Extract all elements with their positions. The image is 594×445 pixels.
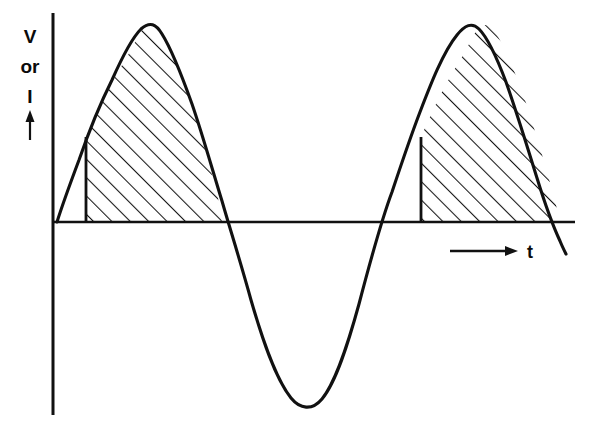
y-axis-label-line-3: I [27, 86, 32, 107]
y-axis-label-line-2: or [21, 56, 41, 77]
x-axis-label: t [527, 242, 533, 262]
hatch-fill-2 [415, 10, 570, 230]
up-arrow-icon [26, 110, 35, 143]
shaded-region-1 [80, 10, 230, 230]
waveform-svg: V or I t [0, 0, 594, 445]
hatch-fill-1 [80, 10, 230, 230]
shaded-region-2 [415, 10, 570, 230]
waveform-figure: V or I t [0, 0, 594, 445]
right-arrow-icon [450, 246, 518, 256]
y-axis-label-line-1: V [24, 26, 37, 47]
